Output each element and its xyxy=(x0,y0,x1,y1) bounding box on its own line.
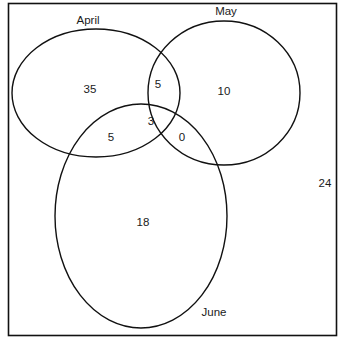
region-count-june-only: 18 xyxy=(137,216,150,228)
region-count-april-june: 5 xyxy=(108,131,114,143)
region-count-may-june: 0 xyxy=(179,131,185,143)
region-count-april-may-june: 3 xyxy=(148,115,154,127)
region-count-april-only: 35 xyxy=(84,83,97,95)
region-count-april-may: 5 xyxy=(155,78,161,90)
set-label-june: June xyxy=(202,306,227,318)
venn-diagram-canvas: April May June 35 5 10 3 5 0 18 24 xyxy=(0,0,343,341)
set-label-may: May xyxy=(215,5,237,17)
venn-diagram-root: April May June 35 5 10 3 5 0 18 24 xyxy=(0,0,343,341)
set-label-april: April xyxy=(76,14,99,26)
region-count-outside-all-sets: 24 xyxy=(319,177,332,189)
region-count-may-only: 10 xyxy=(218,85,231,97)
